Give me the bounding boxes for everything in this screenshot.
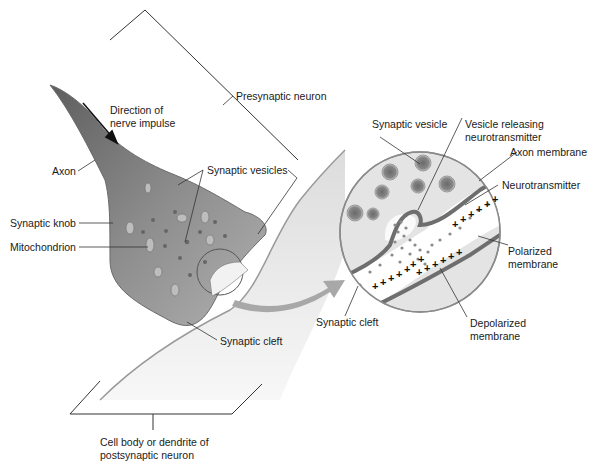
diagram-artwork: +++ +++ +++ +++ + +++ +++ xyxy=(0,0,593,469)
presynaptic-bracket xyxy=(110,10,298,160)
label-vesicle-releasing-line1: Vesicle releasing xyxy=(465,118,544,131)
svg-text:+: + xyxy=(440,254,446,266)
label-direction-line2: nerve impulse xyxy=(110,117,175,130)
svg-text:+: + xyxy=(484,198,490,210)
label-polarized-line2: membrane xyxy=(508,258,558,271)
label-inset-axon-membrane: Axon membrane xyxy=(510,146,587,159)
svg-text:+: + xyxy=(416,266,422,278)
presynaptic-leader-line xyxy=(223,96,233,105)
label-synaptic-knob: Synaptic knob xyxy=(10,217,76,230)
label-mitochondrion: Mitochondrion xyxy=(10,241,76,254)
svg-text:+: + xyxy=(432,258,438,270)
label-direction-line1: Direction of xyxy=(110,104,175,117)
label-polarized-line1: Polarized xyxy=(508,245,558,258)
label-inset-vesicle-releasing: Vesicle releasing neurotransmitter xyxy=(465,118,544,143)
label-postsynaptic-line2: postsynaptic neuron xyxy=(100,449,209,462)
label-postsynaptic-neuron: Cell body or dendrite of postsynaptic ne… xyxy=(100,436,209,461)
svg-text:+: + xyxy=(460,213,466,225)
label-depolarized-line2: membrane xyxy=(470,330,526,343)
label-depolarized-line1: Depolarized xyxy=(470,317,526,330)
svg-text:+: + xyxy=(468,208,474,220)
label-inset-neurotransmitter: Neurotransmitter xyxy=(502,179,580,192)
synapse-diagram: +++ +++ +++ +++ + +++ +++ xyxy=(0,0,593,469)
svg-text:+: + xyxy=(424,262,430,274)
label-inset-depolarized-membrane: Depolarized membrane xyxy=(470,317,526,342)
label-direction-of-impulse: Direction of nerve impulse xyxy=(110,104,175,129)
svg-text:+: + xyxy=(456,246,462,258)
svg-text:+: + xyxy=(372,280,378,292)
label-vesicle-releasing-line2: neurotransmitter xyxy=(465,131,544,144)
svg-text:+: + xyxy=(476,203,482,215)
label-postsynaptic-line1: Cell body or dendrite of xyxy=(100,436,209,449)
svg-text:+: + xyxy=(380,276,386,288)
svg-text:+: + xyxy=(492,193,498,205)
svg-text:+: + xyxy=(452,218,458,230)
label-inset-synaptic-cleft: Synaptic cleft xyxy=(316,316,378,329)
label-presynaptic-neuron: Presynaptic neuron xyxy=(236,90,326,103)
svg-text:+: + xyxy=(448,250,454,262)
label-inset-synaptic-vesicle: Synaptic vesicle xyxy=(372,118,447,131)
label-synaptic-vesicles: Synaptic vesicles xyxy=(207,164,288,177)
label-synaptic-cleft: Synaptic cleft xyxy=(220,335,282,348)
label-axon: Axon xyxy=(52,165,76,178)
svg-text:+: + xyxy=(388,272,394,284)
svg-text:+: + xyxy=(396,268,402,280)
label-inset-polarized-membrane: Polarized membrane xyxy=(508,245,558,270)
